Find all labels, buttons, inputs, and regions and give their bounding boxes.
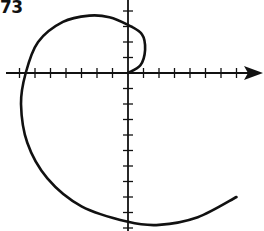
polar-plot [0, 0, 264, 231]
